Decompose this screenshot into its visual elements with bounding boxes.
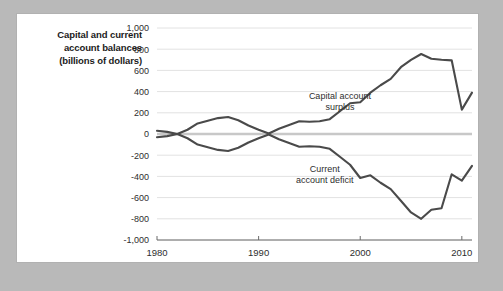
series-annotations-group: Capital accountsurplusCurrentaccount def… <box>296 91 372 185</box>
y-axis-tick-label: 0 <box>144 129 149 139</box>
chart-card: Capital and current account balances (bi… <box>17 14 478 262</box>
x-axis-group <box>157 236 472 240</box>
y-axis-tick-label: -200 <box>131 151 149 161</box>
x-axis-tick-label: 1980 <box>146 247 167 258</box>
gridlines-group <box>157 28 472 240</box>
chart-plot-area: 1,0008006004002000-200-400-600-800-1,000… <box>17 14 478 262</box>
y-axis-tick-label: 400 <box>134 87 149 97</box>
y-axis-tick-label: -400 <box>131 172 149 182</box>
y-axis-tick-label: 600 <box>134 66 149 76</box>
data-series-group <box>157 54 472 219</box>
series-annotation-label: account deficit <box>296 175 354 185</box>
y-axis-tick-label: -800 <box>131 214 149 224</box>
y-axis-tick-label: -1,000 <box>123 235 149 245</box>
y-axis-tick-label: 200 <box>134 108 149 118</box>
series-annotation-label: surplus <box>325 102 355 112</box>
y-axis-tick-label: 1,000 <box>126 23 149 33</box>
y-axis-tick-label: 800 <box>134 45 149 55</box>
x-axis-tick-label: 2010 <box>451 247 472 258</box>
y-axis-tick-label: -600 <box>131 193 149 203</box>
series-annotation-label: Capital account <box>309 91 372 101</box>
y-axis-labels-group: 1,0008006004002000-200-400-600-800-1,000 <box>123 23 149 245</box>
line-chart-svg: 1,0008006004002000-200-400-600-800-1,000… <box>17 14 478 262</box>
x-axis-labels-group: 1980199020002010 <box>146 247 472 258</box>
x-axis-tick-label: 1990 <box>248 247 269 258</box>
x-axis-tick-label: 2000 <box>350 247 371 258</box>
series-annotation-label: Current <box>310 164 341 174</box>
